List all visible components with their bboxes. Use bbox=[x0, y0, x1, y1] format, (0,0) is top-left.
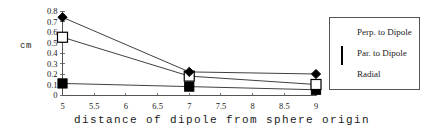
legend-item-par: Par. to Dipole bbox=[339, 47, 407, 59]
x-tick-label: 5.5 bbox=[89, 101, 100, 111]
y-axis-tick-labels: 00.10.20.30.40.50.60.70.8 bbox=[47, 6, 58, 100]
data-point-marker bbox=[185, 82, 194, 91]
data-point-marker bbox=[58, 32, 68, 42]
y-axis-title: cm bbox=[20, 41, 32, 51]
x-tick-label: 8.5 bbox=[279, 101, 290, 111]
y-tick-label: 0.8 bbox=[47, 6, 58, 16]
x-tick-label: 5 bbox=[60, 101, 64, 111]
x-tick-label: 6.5 bbox=[152, 101, 163, 111]
y-tick-label: 0.1 bbox=[47, 80, 58, 90]
legend-item-label: Radial bbox=[357, 68, 381, 80]
x-tick-label: 7.5 bbox=[216, 101, 227, 111]
data-point-marker bbox=[311, 80, 321, 90]
y-tick-label: 0.5 bbox=[47, 38, 58, 48]
x-axis-tick-labels: 55.566.577.588.59 bbox=[60, 101, 318, 111]
x-tick-label: 7 bbox=[187, 101, 191, 111]
legend-item-perp: Perp. to Dipole bbox=[339, 26, 412, 38]
y-tick-label: 0.2 bbox=[47, 69, 58, 79]
x-tick-label: 9 bbox=[314, 101, 318, 111]
legend-item-label: Par. to Dipole bbox=[357, 47, 407, 59]
legend-item-radial: Radial bbox=[339, 68, 381, 80]
y-tick-label: 0 bbox=[53, 90, 57, 100]
x-tick-label: 8 bbox=[251, 101, 255, 111]
data-point-marker bbox=[58, 79, 67, 88]
data-point-marker bbox=[311, 69, 320, 78]
y-tick-label: 0.3 bbox=[47, 59, 58, 69]
y-tick-label: 0.7 bbox=[47, 17, 58, 27]
x-axis-title: distance of dipole from sphere origin bbox=[74, 114, 370, 126]
open-square-icon bbox=[339, 47, 351, 59]
data-point-marker bbox=[58, 13, 67, 22]
diamond-icon bbox=[339, 68, 351, 80]
y-tick-label: 0.6 bbox=[47, 27, 58, 37]
chart-legend: Perp. to Dipole Par. to Dipole Radial bbox=[329, 17, 420, 90]
x-tick-label: 6 bbox=[124, 101, 128, 111]
legend-item-label: Perp. to Dipole bbox=[357, 26, 412, 38]
y-tick-label: 0.4 bbox=[47, 48, 58, 58]
filled-square-icon bbox=[339, 26, 351, 38]
chart-figure: 00.10.20.30.40.50.60.70.8 55.566.577.588… bbox=[0, 0, 436, 133]
